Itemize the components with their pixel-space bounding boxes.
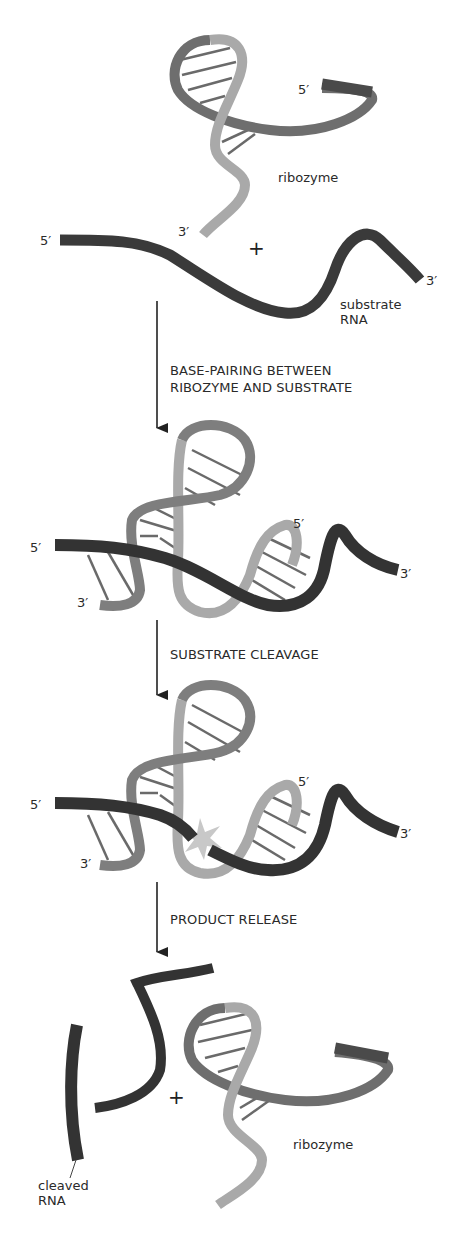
plus-sign-products: +	[168, 1085, 185, 1109]
ribozyme-label: ribozyme	[278, 170, 338, 185]
step-2-line1: SUBSTRATE CLEAVAGE	[170, 646, 319, 663]
complex-substrate-3prime: 3′	[400, 566, 411, 581]
ribozyme-free-top	[175, 39, 373, 235]
cleavage-ribozyme-5prime: 5′	[298, 774, 309, 789]
cleaved-label-line1: cleaved	[38, 1178, 89, 1193]
step-1-line2: RIBOZYME AND SUBSTRATE	[170, 379, 352, 396]
ribozyme-3prime-label: 3′	[178, 224, 189, 239]
substrate-label-line1: substrate	[340, 297, 402, 312]
complex-substrate-5prime: 5′	[30, 540, 41, 555]
ribozyme-5prime-label: 5′	[298, 82, 309, 97]
ribozyme-substrate-complex	[55, 425, 398, 613]
ribozyme-released	[189, 1007, 389, 1205]
cleavage-substrate-3prime: 3′	[400, 826, 411, 841]
cleavage-substrate-5prime: 5′	[30, 797, 41, 812]
cleaved-rna-fragments	[70, 968, 213, 1178]
cleavage-complex	[55, 685, 398, 874]
substrate-label-line2: RNA	[340, 312, 402, 327]
complex-ribozyme-5prime: 5′	[293, 516, 304, 531]
step-substrate-cleavage: SUBSTRATE CLEAVAGE	[170, 646, 319, 663]
substrate-3prime-label: 3′	[426, 273, 437, 288]
step-3-line1: PRODUCT RELEASE	[170, 911, 297, 928]
cleaved-rna-label: cleaved RNA	[38, 1178, 89, 1208]
ribozyme-diagram	[0, 0, 457, 1233]
step-1-line1: BASE-PAIRING BETWEEN	[170, 362, 352, 379]
step-product-release: PRODUCT RELEASE	[170, 911, 297, 928]
plus-sign: +	[248, 236, 265, 260]
complex-ribozyme-3prime: 3′	[77, 595, 88, 610]
cleavage-ribozyme-3prime: 3′	[80, 856, 91, 871]
substrate-rna-label: substrate RNA	[340, 297, 402, 327]
substrate-5prime-label: 5′	[40, 233, 51, 248]
step-base-pairing: BASE-PAIRING BETWEEN RIBOZYME AND SUBSTR…	[170, 362, 352, 396]
cleaved-label-line2: RNA	[38, 1193, 89, 1208]
released-ribozyme-label: ribozyme	[293, 1137, 353, 1152]
